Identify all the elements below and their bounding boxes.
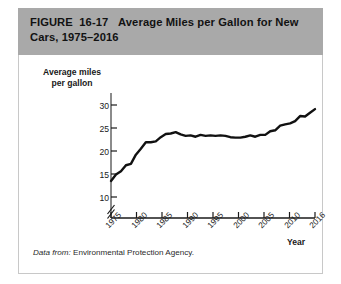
source-note-lead: Data from: (33, 248, 71, 257)
chart-plot-area: Average miles per gallon 30 25 20 15 10 (19, 55, 322, 230)
source-note-text: Environmental Protection Agency. (71, 248, 194, 257)
chart-svg (19, 55, 322, 230)
figure-header-band: FIGURE 16-17 Average Miles per Gallon fo… (18, 8, 323, 55)
y-axis-ticks (111, 105, 117, 197)
figure-number: FIGURE 16-17 (30, 16, 108, 28)
mpg-data-line (111, 109, 315, 181)
figure-card: FIGURE 16-17 Average Miles per Gallon fo… (18, 8, 323, 274)
source-note: Data from: Environmental Protection Agen… (33, 248, 194, 257)
figure-header-title: FIGURE 16-17 Average Miles per Gallon fo… (30, 15, 311, 44)
figure-body-panel: Average miles per gallon 30 25 20 15 10 (18, 55, 323, 274)
x-axis-title: Year (287, 237, 321, 248)
